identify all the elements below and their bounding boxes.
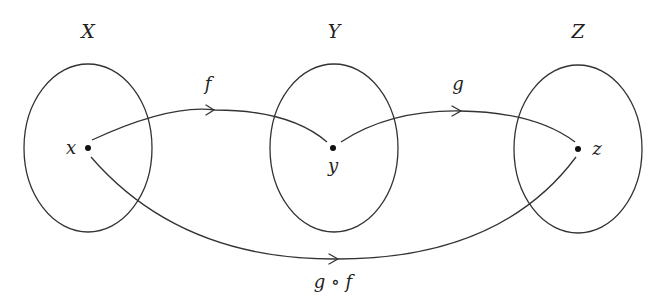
map-f-arrow — [92, 109, 327, 142]
element-x-label: x — [66, 137, 76, 158]
diagram-svg: X Y Z x y z f g g ∘ f — [0, 0, 657, 303]
element-y-dot — [330, 145, 336, 151]
composition-diagram: X Y Z x y z f g g ∘ f — [0, 0, 657, 303]
set-z-label: Z — [570, 20, 585, 42]
map-f-label: f — [203, 73, 215, 94]
set-y-label: Y — [328, 20, 343, 42]
map-g-label: g — [452, 73, 464, 94]
map-gf-label: g ∘ f — [314, 271, 356, 292]
element-y-label: y — [327, 155, 339, 176]
map-g-arrow — [341, 111, 575, 142]
set-x-label: X — [79, 20, 96, 42]
element-z-label: z — [591, 138, 602, 159]
element-z-dot — [575, 146, 581, 152]
element-x-dot — [85, 145, 91, 151]
